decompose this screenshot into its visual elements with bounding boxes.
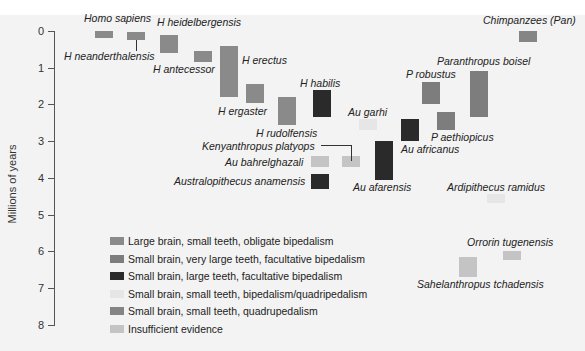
species-label: Homo sapiens [84,12,151,24]
legend-swatch [110,325,124,333]
y-tick-label: 4 [30,172,44,184]
species-bar [220,46,238,97]
species-label: Au bahrelghazali [225,156,303,168]
y-tick [48,31,55,32]
species-label: Australopithecus anamensis [174,175,305,187]
legend-label: Insufficient evidence [128,322,223,336]
species-bar [311,174,329,189]
species-bar [278,97,296,125]
y-tick [48,251,55,252]
y-tick-label: 6 [30,245,44,257]
legend-swatch [110,237,124,245]
species-label: Sahelanthropus tchadensis [417,278,544,290]
y-tick [48,104,55,105]
legend-label: Small brain, large teeth, facultative bi… [128,269,342,283]
y-tick-label: 2 [30,98,44,110]
species-bar [487,194,505,203]
y-tick-label: 1 [30,62,44,74]
species-bar [311,156,329,167]
species-label: H heidelbergensis [157,16,241,28]
species-bar [246,84,264,102]
y-tick [48,68,55,69]
species-bar [459,257,477,277]
y-tick [48,178,55,179]
species-bar [401,119,419,141]
species-label: Orrorin tugenensis [467,236,553,248]
legend-swatch [110,255,124,263]
species-label: Chimpanzees (Pan) [483,14,576,26]
species-bar [127,32,145,40]
species-bar [437,112,455,130]
species-label: Au garhi [348,106,387,118]
y-tick-label: 7 [30,282,44,294]
y-tick-label: 5 [30,209,44,221]
species-label: H neanderthalensis [64,50,154,62]
species-bar [359,119,377,130]
species-label: P aethiopicus [431,131,494,143]
y-tick-label: 3 [30,135,44,147]
y-tick-label: 8 [30,319,44,331]
y-axis-title: Millions of years [6,124,18,244]
species-bar [313,90,331,118]
species-label: H ergaster [218,105,267,117]
legend-swatch [110,272,124,280]
species-bar [194,51,212,62]
species-label: H erectus [242,54,287,66]
species-bar [503,251,521,260]
legend-label: Large brain, small teeth, obligate biped… [128,234,333,248]
y-tick [48,288,55,289]
species-label: H habilis [300,77,340,89]
species-label: Kenyanthropus platyops [202,140,315,152]
y-tick-label: 0 [30,25,44,37]
legend-label: Small brain, small teeth, bipedalism/qua… [128,287,367,301]
legend-swatch [110,290,124,298]
species-bar [95,31,113,38]
species-bar [422,82,440,104]
legend-swatch [110,307,124,315]
species-label: H rudolfensis [256,127,317,139]
kenyanthropus-leader-v [351,145,352,161]
species-bar [470,71,488,117]
species-label: Au afarensis [353,181,411,193]
legend-label: Small brain, small teeth, quadrupedalism [128,304,318,318]
y-tick [48,215,55,216]
legend-label: Small brain, very large teeth, facultati… [128,252,365,266]
species-bar [160,35,178,53]
species-label: Ardipithecus ramidus [447,181,545,193]
species-bar [375,141,393,180]
y-tick [48,325,55,326]
species-label: Paranthropus boisel [437,55,530,67]
y-tick [48,141,55,142]
hominin-timeline-chart: Millions of years 012345678 Homo sapiens… [0,0,585,351]
species-bar [519,31,537,42]
species-label: P robustus [406,68,456,80]
neanderthalensis-leader-line [136,40,137,51]
kenyanthropus-leader-h [321,145,352,146]
species-label: Au africanus [401,143,459,155]
species-label: H antecessor [153,63,215,75]
